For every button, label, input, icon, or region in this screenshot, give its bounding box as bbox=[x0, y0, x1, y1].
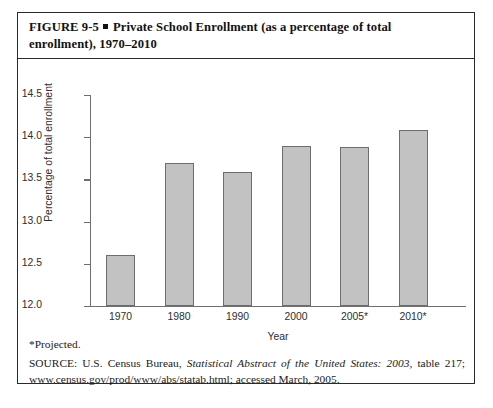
projected-footnote: *Projected. bbox=[29, 337, 465, 352]
x-tick-label: 2000 bbox=[266, 311, 326, 322]
bar-2005-projected bbox=[340, 147, 369, 306]
y-tick-label: 12.0 bbox=[2, 299, 42, 310]
source-publication-title: Statistical Abstract of the United State… bbox=[187, 357, 410, 369]
x-tick-label: 1970 bbox=[91, 311, 151, 322]
y-axis-line bbox=[90, 95, 91, 307]
y-tick-mark bbox=[84, 264, 90, 265]
figure-footnotes: *Projected. SOURCE: U.S. Census Bureau, … bbox=[29, 337, 465, 387]
y-tick-mark bbox=[84, 306, 90, 307]
bar-1990 bbox=[223, 172, 252, 306]
bar-2000 bbox=[282, 146, 311, 306]
x-axis-line bbox=[90, 306, 466, 307]
y-tick-mark bbox=[84, 137, 90, 138]
x-tick-label: 1980 bbox=[149, 311, 209, 322]
source-footnote: SOURCE: U.S. Census Bureau, Statistical … bbox=[29, 356, 465, 387]
x-tick-label: 1990 bbox=[208, 311, 268, 322]
y-tick-label: 13.5 bbox=[2, 172, 42, 183]
y-tick-label: 14.5 bbox=[2, 88, 42, 99]
x-tick-label: 2005* bbox=[325, 311, 385, 322]
figure-title-line1: Private School Enrollment (as a percenta… bbox=[113, 20, 392, 34]
y-tick-mark bbox=[84, 222, 90, 223]
figure-number: FIGURE 9-5 bbox=[29, 20, 99, 34]
bar-2010-projected bbox=[399, 130, 428, 306]
bullet-square-icon bbox=[103, 24, 108, 29]
chart-plot-area: Percentage of total enrollment 12.012.51… bbox=[18, 59, 474, 383]
y-tick-label: 14.0 bbox=[2, 130, 42, 141]
x-tick-label: 2010* bbox=[383, 311, 443, 322]
y-tick-mark bbox=[84, 95, 90, 96]
source-prefix: SOURCE: U.S. Census Bureau, bbox=[29, 357, 187, 369]
figure-container: FIGURE 9-5Private School Enrollment (as … bbox=[17, 12, 475, 384]
y-tick-mark bbox=[84, 179, 90, 180]
figure-title: FIGURE 9-5Private School Enrollment (as … bbox=[18, 13, 474, 59]
y-axis-title: Percentage of total enrollment bbox=[43, 63, 54, 243]
y-tick-label: 12.5 bbox=[2, 257, 42, 268]
y-tick-label: 13.0 bbox=[2, 215, 42, 226]
bar-1970 bbox=[106, 255, 135, 306]
bar-1980 bbox=[165, 163, 194, 306]
figure-title-line2: enrollment), 1970–2010 bbox=[29, 37, 157, 51]
